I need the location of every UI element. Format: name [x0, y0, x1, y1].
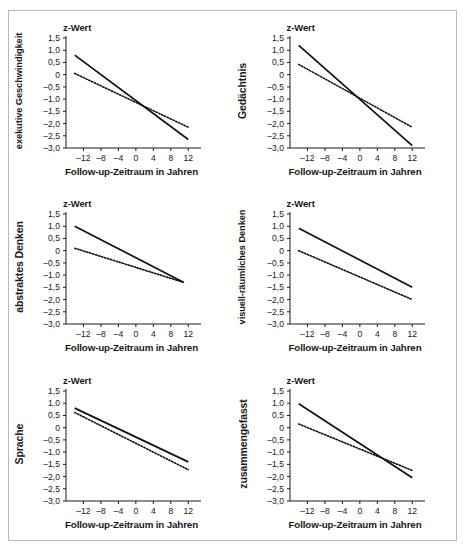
x-tick-label: 4	[374, 329, 379, 339]
x-tick-label: 12	[407, 153, 417, 163]
x-tick-label: 0	[357, 153, 362, 163]
y-tick-label: –2,0	[267, 295, 284, 305]
series-line-solid	[75, 55, 189, 139]
y-tick-label: –2,0	[43, 471, 60, 481]
series-line-dotted	[298, 64, 412, 127]
x-tick-label: –4	[114, 153, 124, 163]
x-tick-label: –8	[96, 329, 106, 339]
chart-panel-3: abstraktes Denkenz-Wert1,51,00,50–0,5–1,…	[9, 187, 233, 363]
x-tick-label: –8	[96, 153, 106, 163]
x-tick-label: 0	[357, 329, 362, 339]
y-tick-label: 1,0	[48, 222, 60, 232]
y-tick-label: –0,5	[43, 82, 60, 92]
plot-area: 1,51,00,50–0,5–1,0–1,5–2,0–2,5–3,0–12–8–…	[233, 364, 457, 541]
chart-panel-6: zusammengefasstz-Wert1,51,00,50–0,5–1,0–…	[233, 364, 457, 540]
x-tick-label: 12	[407, 506, 417, 516]
y-tick-label: 1,0	[48, 398, 60, 408]
y-tick-label: 1,5	[272, 209, 284, 219]
y-tick-label: 1,0	[272, 222, 284, 232]
panel-inner: zusammengefasstz-Wert1,51,00,50–0,5–1,0–…	[233, 364, 457, 540]
y-tick-label: –0,5	[43, 435, 60, 445]
y-tick-label: –2,0	[267, 471, 284, 481]
x-axis-title: Follow-up-Zeitraum in Jahren	[16, 166, 247, 177]
y-tick-label: –0,5	[267, 435, 284, 445]
x-tick-label: 8	[168, 329, 173, 339]
y-tick-label: –1,0	[267, 447, 284, 457]
y-tick-label: –1,0	[267, 270, 284, 280]
x-tick-label: –8	[320, 329, 330, 339]
y-tick-label: –3,0	[267, 319, 284, 329]
x-tick-label: 0	[133, 506, 138, 516]
x-tick-label: 8	[392, 153, 397, 163]
y-tick-label: –2,5	[43, 307, 60, 317]
x-tick-label: 0	[357, 506, 362, 516]
panel-inner: exekutive Geschwindigkeitz-Wert1,51,00,5…	[9, 11, 233, 187]
x-tick-label: 4	[374, 506, 379, 516]
x-tick-label: –8	[320, 506, 330, 516]
y-tick-label: –1,5	[267, 459, 284, 469]
y-tick-label: 0	[279, 422, 284, 432]
x-tick-label: 8	[168, 506, 173, 516]
x-tick-label: 12	[183, 329, 193, 339]
y-tick-label: –0,5	[267, 82, 284, 92]
x-tick-label: –12	[76, 153, 91, 163]
y-tick-label: –2,0	[267, 119, 284, 129]
x-tick-label: 8	[392, 329, 397, 339]
y-tick-label: 0,5	[48, 410, 60, 420]
y-tick-label: –0,5	[43, 258, 60, 268]
y-tick-label: –3,0	[267, 496, 284, 506]
x-tick-label: 12	[183, 153, 193, 163]
x-tick-label: –12	[300, 506, 315, 516]
y-tick-label: –2,5	[43, 483, 60, 493]
x-tick-label: 12	[183, 506, 193, 516]
x-tick-label: –8	[320, 153, 330, 163]
x-tick-label: –8	[96, 506, 106, 516]
x-tick-label: 8	[168, 153, 173, 163]
y-tick-label: –1,5	[43, 106, 60, 116]
x-tick-label: –12	[76, 329, 91, 339]
y-tick-label: –3,0	[267, 143, 284, 153]
x-tick-label: –4	[114, 329, 124, 339]
y-tick-label: 1,5	[272, 33, 284, 43]
y-tick-label: –2,5	[267, 131, 284, 141]
y-tick-label: –1,0	[43, 94, 60, 104]
y-tick-label: –1,0	[267, 94, 284, 104]
series-line-dotted	[75, 73, 189, 127]
plot-area: 1,51,00,50–0,5–1,0–1,5–2,0–2,5–3,0–12–8–…	[9, 187, 233, 364]
panel-inner: abstraktes Denkenz-Wert1,51,00,50–0,5–1,…	[9, 187, 233, 363]
x-tick-label: 4	[374, 153, 379, 163]
y-tick-label: –3,0	[43, 143, 60, 153]
x-axis-title: Follow-up-Zeitraum in Jahren	[16, 342, 247, 353]
y-tick-label: –2,0	[43, 119, 60, 129]
y-tick-label: –3,0	[43, 496, 60, 506]
panel-inner: visuell-räumliches Denkenz-Wert1,51,00,5…	[233, 187, 457, 363]
series-line-solid	[75, 227, 184, 283]
x-axis-title: Follow-up-Zeitraum in Jahren	[240, 342, 466, 353]
y-tick-label: –3,0	[43, 319, 60, 329]
series-line-solid	[75, 408, 189, 462]
x-tick-label: –4	[337, 153, 347, 163]
x-tick-label: –12	[300, 329, 315, 339]
x-tick-label: 0	[133, 329, 138, 339]
y-tick-label: –1,5	[267, 106, 284, 116]
plot-area: 1,51,00,50–0,5–1,0–1,5–2,0–2,5–3,0–12–8–…	[233, 11, 457, 188]
x-tick-label: –4	[114, 506, 124, 516]
y-tick-label: 1,0	[272, 45, 284, 55]
x-tick-label: 4	[151, 329, 156, 339]
y-tick-label: 0	[279, 70, 284, 80]
panel-inner: Gedächtnisz-Wert1,51,00,50–0,5–1,0–1,5–2…	[233, 11, 457, 187]
x-tick-label: 0	[133, 153, 138, 163]
y-tick-label: –0,5	[267, 258, 284, 268]
y-tick-label: –1,5	[267, 283, 284, 293]
y-tick-label: 0	[279, 246, 284, 256]
x-tick-label: 12	[407, 329, 417, 339]
y-tick-label: 0,5	[272, 234, 284, 244]
x-tick-label: 4	[151, 153, 156, 163]
plot-area: 1,51,00,50–0,5–1,0–1,5–2,0–2,5–3,0–12–8–…	[9, 11, 233, 188]
y-tick-label: 0,5	[48, 234, 60, 244]
chart-panel-1: exekutive Geschwindigkeitz-Wert1,51,00,5…	[9, 11, 233, 187]
y-tick-label: –2,5	[267, 307, 284, 317]
y-tick-label: 1,5	[48, 386, 60, 396]
y-tick-label: 0	[55, 70, 60, 80]
series-line-dotted	[298, 424, 412, 470]
